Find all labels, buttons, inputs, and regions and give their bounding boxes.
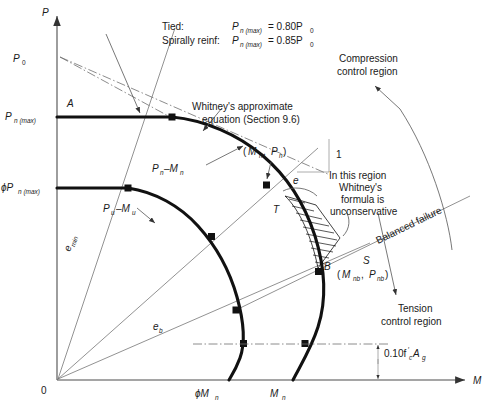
marker-point-mn-pn	[263, 182, 270, 189]
svg-text:nb: nb	[377, 275, 385, 282]
marker-point-b	[315, 268, 322, 275]
svg-text:ϕM: ϕM	[195, 388, 210, 399]
svg-text:–M: –M	[115, 203, 131, 214]
arrow-tension-region	[378, 213, 396, 295]
svg-text:,: ,	[263, 146, 266, 157]
x-axis-label: M	[473, 375, 482, 386]
svg-text:u: u	[111, 209, 115, 216]
unconservative-line3: formula is	[341, 194, 384, 205]
svg-text:P: P	[103, 203, 110, 214]
svg-text:P: P	[152, 163, 159, 174]
svg-text:A: A	[412, 348, 420, 359]
arrow-mn-pn-point	[267, 162, 271, 179]
eccentricity-label: e	[293, 175, 299, 186]
svg-text:): )	[385, 269, 388, 280]
svg-text:ϕP: ϕP	[1, 182, 14, 193]
interaction-diagram-figure: P M 0 P 0 P n (max) ϕP n (max) ϕM n	[0, 0, 500, 419]
y-tick-pn-max: P n (max)	[5, 111, 36, 125]
arrow-pu-mu-label	[137, 208, 155, 223]
svg-text:0.10f: 0.10f	[384, 348, 406, 359]
pu-mu-curve-group	[57, 188, 243, 380]
pn-mn-curve-label: P n –M n	[152, 163, 184, 176]
compression-region-line2: control region	[337, 66, 398, 77]
svg-text:P: P	[13, 53, 20, 64]
arrow-compression-region	[375, 86, 400, 109]
svg-text:–M: –M	[163, 163, 179, 174]
unconservative-hatch-region	[283, 188, 349, 268]
svg-text:n: n	[180, 169, 184, 176]
svg-text:): )	[283, 146, 286, 157]
hatch-upper-bracket	[283, 188, 317, 196]
e-b-label: e b	[153, 321, 163, 334]
svg-text:M: M	[342, 269, 351, 280]
marker-point-a	[169, 114, 176, 121]
slope-one-label: 1	[336, 149, 342, 160]
unconservative-line4: unconservative	[330, 206, 398, 217]
pu-mu-curve	[128, 188, 243, 380]
y-tick-labels-group: P 0 P n (max) ϕP n (max)	[1, 53, 40, 196]
point-markers-group	[125, 114, 323, 348]
legend-tied-label: Tied:	[162, 21, 184, 32]
arrow-point-a	[106, 34, 140, 113]
annotations-group: Whitney's approximate equation (Section …	[61, 53, 443, 362]
dimension-group	[193, 344, 390, 379]
arrow-pn-mn-label	[206, 146, 243, 165]
point-label-a: A	[66, 98, 74, 109]
x-tick-phi-mn: ϕM n	[195, 388, 219, 401]
svg-text:′: ′	[408, 346, 410, 353]
svg-text:M: M	[270, 388, 279, 399]
legend-tied-sub: n (max)	[240, 27, 262, 35]
dimension-label: 0.10f ′ c A g	[384, 346, 426, 362]
unconservative-line2: Whitney's	[339, 182, 382, 193]
marker-pn-bottom	[302, 340, 309, 347]
legend-spiral-eq: = 0.85P	[268, 35, 303, 46]
svg-text:,: ,	[361, 269, 364, 280]
svg-text:n (max): n (max)	[14, 117, 36, 125]
diagram-canvas: P M 0 P 0 P n (max) ϕP n (max) ϕM n	[0, 0, 500, 419]
svg-text:b: b	[159, 327, 163, 334]
svg-text:n: n	[215, 394, 219, 401]
svg-text:(: (	[243, 146, 247, 157]
x-tick-mn: M n	[270, 388, 286, 401]
point-label-t: T	[273, 204, 280, 215]
tension-region-line1: Tension	[398, 303, 432, 314]
y-tick-p0: P 0	[13, 53, 26, 66]
x-tick-labels-group: ϕM n M n	[195, 388, 286, 401]
marker-pu-eb	[233, 307, 240, 314]
svg-text:min: min	[69, 235, 79, 248]
compression-region-line1: Compression	[339, 53, 398, 64]
svg-text:P: P	[5, 111, 12, 122]
y-tick-phi-pn-max: ϕP n (max)	[1, 182, 40, 196]
axis-labels-group: P M 0	[41, 7, 482, 396]
legend-spiral-label: Spirally reinf:	[162, 35, 220, 46]
svg-text:M: M	[248, 146, 257, 157]
legend-spiral-eq-sub: 0	[310, 41, 314, 48]
whitney-annotation-line2: equation (Section 9.6)	[202, 114, 300, 125]
marker-pu-mid	[208, 233, 215, 240]
svg-text:0: 0	[22, 59, 26, 66]
marker-phi-pn-max-corner	[125, 185, 132, 192]
marker-pu-bottom	[240, 340, 247, 347]
legend-group: Tied: P n (max) = 0.80P 0 Spirally reinf…	[162, 21, 314, 49]
legend-spiral-var: P	[232, 35, 239, 46]
y-axis-label: P	[42, 7, 49, 18]
svg-text:u: u	[132, 209, 136, 216]
slope-triangle-group	[297, 139, 329, 172]
svg-text:(: (	[337, 269, 341, 280]
whitney-annotation-line1: Whitney's approximate	[192, 101, 293, 112]
svg-text:nb: nb	[353, 275, 361, 282]
legend-tied-var: P	[232, 21, 239, 32]
point-label-mnb-pnb: ( M nb , P nb )	[337, 269, 388, 282]
tension-region-line2: control region	[381, 316, 442, 327]
legend-tied-eq-sub: 0	[310, 27, 314, 34]
point-label-s: S	[363, 255, 370, 266]
svg-text:P: P	[369, 269, 376, 280]
svg-text:n (max): n (max)	[18, 188, 40, 196]
legend-tied-eq: = 0.80P	[268, 21, 303, 32]
svg-text:g: g	[422, 354, 426, 362]
e-min-label: e min	[61, 233, 79, 253]
svg-text:n: n	[282, 394, 286, 401]
pu-mu-curve-label: P u –M u	[103, 203, 136, 216]
legend-spiral-sub: n (max)	[240, 41, 262, 49]
origin-label: 0	[41, 385, 47, 396]
